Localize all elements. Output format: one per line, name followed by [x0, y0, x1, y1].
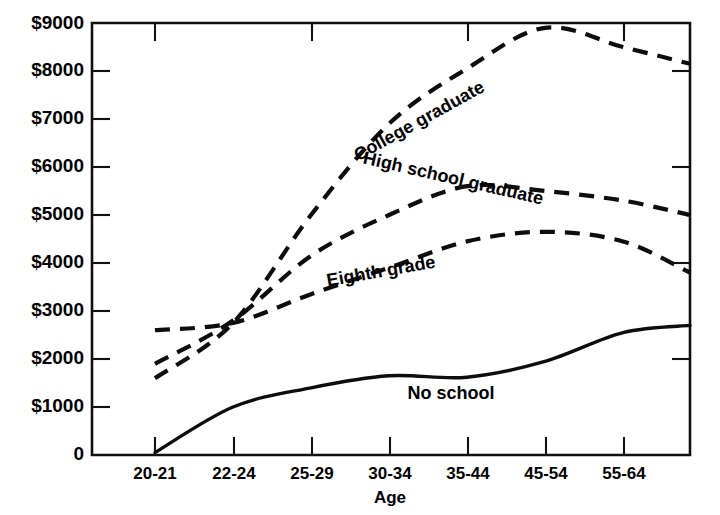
x-tick-label: 45-54 — [524, 464, 568, 483]
series-label-high-school-graduate: High school graduate — [361, 148, 545, 209]
x-tick-label: 55-64 — [602, 464, 646, 483]
x-axis-labels: 20-21 22-24 25-29 30-34 35-44 45-54 55-6… — [133, 464, 646, 483]
series-line-eighth-grade — [155, 232, 690, 330]
x-tick-label: 30-34 — [368, 464, 412, 483]
x-tick-label: 35-44 — [446, 464, 490, 483]
y-tick-label: $1000 — [31, 395, 84, 416]
y-tick-label: $6000 — [31, 155, 84, 176]
series-label-eighth-grade: Eighth grade — [325, 252, 437, 291]
y-tick-label: $5000 — [31, 203, 84, 224]
x-tick-label: 25-29 — [290, 464, 333, 483]
x-axis-ticks — [155, 23, 624, 455]
y-tick-label: $3000 — [31, 299, 84, 320]
series-line-college-graduate — [155, 27, 690, 378]
y-tick-label: $9000 — [31, 12, 84, 33]
x-axis-title: Age — [374, 488, 406, 507]
x-tick-label: 22-24 — [212, 464, 256, 483]
y-axis-labels: $9000 $8000 $7000 $6000 $5000 $4000 $300… — [31, 12, 84, 464]
income-by-age-education-chart: $9000 $8000 $7000 $6000 $5000 $4000 $300… — [0, 0, 720, 515]
y-tick-label: $4000 — [31, 251, 84, 272]
y-tick-label: $8000 — [31, 59, 84, 80]
series-label-no-school: No school — [407, 383, 494, 403]
plot-frame — [92, 23, 690, 455]
x-tick-label: 20-21 — [133, 464, 176, 483]
y-tick-label: $2000 — [31, 347, 84, 368]
y-tick-label: 0 — [73, 443, 84, 464]
y-tick-label: $7000 — [31, 107, 84, 128]
series-label-layer: College graduateHigh school graduateEigh… — [325, 77, 545, 403]
chart-canvas: $9000 $8000 $7000 $6000 $5000 $4000 $300… — [0, 0, 720, 515]
